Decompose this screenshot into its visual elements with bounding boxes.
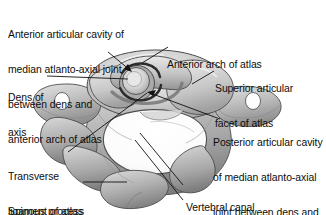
label-line: axis — [8, 127, 43, 139]
anatomy-figure: Anterior articular cavity of median atla… — [0, 0, 326, 215]
spinous-process-of-axis — [101, 170, 169, 208]
label-line: Posterior articular cavity — [213, 137, 323, 149]
label-line: Spinous process — [8, 206, 84, 215]
label-line: Superior articular — [215, 83, 293, 95]
dens-inner-highlight — [127, 72, 142, 87]
label-line: Dens of — [8, 92, 43, 104]
label-line: Transverse — [8, 171, 83, 183]
label-spinous-process-of-axis: Spinous process of axis — [8, 183, 84, 215]
label-posterior-arch-of-atlas: Posterior arch of atlas — [186, 195, 286, 215]
label-line: Anterior articular cavity of — [8, 29, 124, 41]
